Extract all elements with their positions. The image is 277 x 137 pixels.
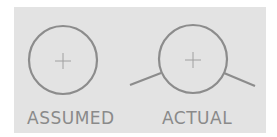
assumed-label: ASSUMED xyxy=(27,108,115,128)
actual-left-line xyxy=(130,73,161,85)
assumed-figure xyxy=(29,26,97,94)
actual-label: ACTUAL xyxy=(162,108,232,128)
actual-figure xyxy=(130,25,255,93)
actual-right-line xyxy=(224,73,255,86)
